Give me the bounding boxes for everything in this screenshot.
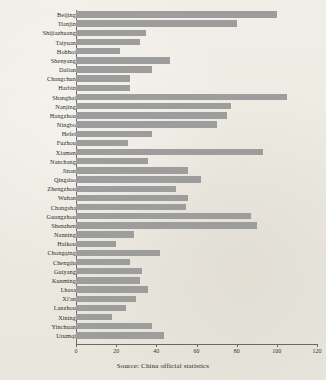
- bar: [76, 103, 231, 109]
- bar-row: Xining: [0, 313, 326, 322]
- category-label: Qingdao: [0, 175, 76, 184]
- category-label: Hefei: [0, 129, 76, 138]
- bar: [76, 204, 186, 210]
- bar-row: Lanzhou: [0, 303, 326, 312]
- bar-row: Lhasa: [0, 285, 326, 294]
- bar-row: Ningbo: [0, 120, 326, 129]
- category-label: Shanghai: [0, 93, 76, 102]
- category-label: Lhasa: [0, 285, 76, 294]
- category-label: Shijiazhuang: [0, 28, 76, 37]
- bar-row: Hohhot: [0, 47, 326, 56]
- source-note: Source: China official statistics: [0, 362, 326, 370]
- category-label: Taiyuan: [0, 38, 76, 47]
- bar: [76, 277, 140, 283]
- bar-row: Shanghai: [0, 93, 326, 102]
- bar-row: Chengdu: [0, 258, 326, 267]
- category-label: Guangzhou: [0, 212, 76, 221]
- bar: [76, 121, 217, 127]
- bar: [76, 213, 251, 219]
- bar-row: Changsha: [0, 203, 326, 212]
- category-label: Jinan: [0, 166, 76, 175]
- bar: [76, 231, 134, 237]
- bar-row: Dalian: [0, 65, 326, 74]
- horizontal-bar-chart: BeijingTianjinShijiazhuangTaiyuanHohhotS…: [0, 0, 326, 380]
- bar-row: Chongqing: [0, 248, 326, 257]
- x-axis-tick-label: 100: [267, 347, 287, 356]
- bar: [76, 286, 148, 292]
- category-label: Fuzhou: [0, 138, 76, 147]
- bar-row: Taiyuan: [0, 38, 326, 47]
- category-label: Xining: [0, 313, 76, 322]
- bar: [76, 314, 112, 320]
- bar: [76, 250, 160, 256]
- bar: [76, 131, 152, 137]
- x-axis-tick-label: 80: [227, 347, 247, 356]
- bar-row: Guiyang: [0, 267, 326, 276]
- category-label: Zhengzhou: [0, 184, 76, 193]
- x-axis-tick-label: 120: [307, 347, 326, 356]
- bar-row: Guangzhou: [0, 212, 326, 221]
- bar: [76, 332, 164, 338]
- category-label: Yinchuan: [0, 322, 76, 331]
- category-label: Hangzhou: [0, 111, 76, 120]
- bar-row: Haikou: [0, 239, 326, 248]
- bar-row: Nanning: [0, 230, 326, 239]
- bar: [76, 112, 227, 118]
- bar: [76, 57, 170, 63]
- bar-row: Qingdao: [0, 175, 326, 184]
- category-label: Wuhan: [0, 193, 76, 202]
- bar: [76, 323, 152, 329]
- bar: [76, 222, 257, 228]
- category-label: Nanchang: [0, 157, 76, 166]
- x-axis-tick-label: 40: [146, 347, 166, 356]
- x-axis-tick-label: 0: [66, 347, 86, 356]
- category-label: Beijing: [0, 10, 76, 19]
- x-axis-tick-label: 60: [187, 347, 207, 356]
- category-label: Haikou: [0, 239, 76, 248]
- category-label: Kunming: [0, 276, 76, 285]
- bar: [76, 48, 120, 54]
- bar: [76, 39, 140, 45]
- bar-row: Changchun: [0, 74, 326, 83]
- bar-row: Shenzhen: [0, 221, 326, 230]
- bar: [76, 167, 188, 173]
- category-label: Guiyang: [0, 267, 76, 276]
- bar-row: Jinan: [0, 166, 326, 175]
- bar: [76, 75, 130, 81]
- bar: [76, 305, 126, 311]
- bar: [76, 259, 130, 265]
- bar: [76, 94, 287, 100]
- x-axis-tick-label: 20: [106, 347, 126, 356]
- bar: [76, 296, 136, 302]
- category-label: Xi'an: [0, 294, 76, 303]
- bar-row: Tianjin: [0, 19, 326, 28]
- category-label: Hohhot: [0, 47, 76, 56]
- category-label: Changchun: [0, 74, 76, 83]
- category-label: Shenzhen: [0, 221, 76, 230]
- bar: [76, 268, 142, 274]
- bar: [76, 158, 148, 164]
- bar-row: Wuhan: [0, 193, 326, 202]
- bar: [76, 195, 188, 201]
- category-label: Chengdu: [0, 258, 76, 267]
- category-label: Nanjing: [0, 102, 76, 111]
- category-label: Urumqi: [0, 331, 76, 340]
- category-label: Nanning: [0, 230, 76, 239]
- category-label: Ningbo: [0, 120, 76, 129]
- bar-row: Beijing: [0, 10, 326, 19]
- bar-row: Shijiazhuang: [0, 28, 326, 37]
- category-label: Harbin: [0, 83, 76, 92]
- bar-row: Nanjing: [0, 102, 326, 111]
- category-label: Lanzhou: [0, 303, 76, 312]
- bar: [76, 176, 201, 182]
- bar-row: Hangzhou: [0, 111, 326, 120]
- bar: [76, 149, 263, 155]
- bar-row: Harbin: [0, 83, 326, 92]
- category-label: Chongqing: [0, 248, 76, 257]
- bar: [76, 85, 130, 91]
- bar-row: Xiamen: [0, 148, 326, 157]
- bar-row: Urumqi: [0, 331, 326, 340]
- bar-row: Shenyang: [0, 56, 326, 65]
- bar: [76, 66, 152, 72]
- bar: [76, 11, 277, 17]
